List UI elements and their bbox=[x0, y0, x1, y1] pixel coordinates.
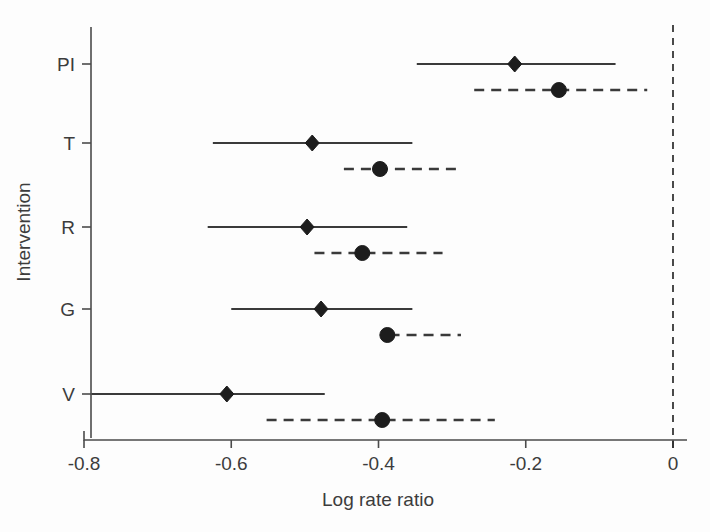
forest-plot-canvas: -0.8-0.6-0.4-0.20PITRGVLog rate ratioInt… bbox=[0, 0, 710, 532]
forest-row bbox=[417, 56, 647, 98]
estimate-marker-diamond bbox=[300, 219, 314, 235]
estimate-marker-diamond bbox=[305, 135, 319, 151]
estimate-marker-circle bbox=[380, 328, 395, 343]
estimate-marker-diamond bbox=[220, 386, 234, 402]
x-axis-tick-label: -0.6 bbox=[215, 453, 248, 474]
axis-labels-layer: -0.8-0.6-0.4-0.20PITRGVLog rate ratioInt… bbox=[13, 54, 678, 510]
x-axis-tick-label: -0.8 bbox=[68, 453, 101, 474]
y-axis-tick-label: T bbox=[63, 133, 75, 154]
x-axis-tick-label: -0.4 bbox=[362, 453, 395, 474]
x-axis-title: Log rate ratio bbox=[322, 489, 434, 510]
data-series-layer bbox=[91, 56, 647, 428]
y-axis-tick-label: G bbox=[60, 299, 75, 320]
y-axis-tick-label: PI bbox=[57, 54, 75, 75]
estimate-marker-circle bbox=[355, 246, 370, 261]
forest-row bbox=[213, 135, 460, 177]
forest-row bbox=[208, 219, 443, 261]
y-axis-tick-label: V bbox=[62, 384, 75, 405]
forest-plot-figure: -0.8-0.6-0.4-0.20PITRGVLog rate ratioInt… bbox=[0, 0, 710, 532]
forest-row bbox=[91, 386, 494, 428]
estimate-marker-circle bbox=[372, 162, 387, 177]
estimate-marker-circle bbox=[375, 413, 390, 428]
y-axis-tick-label: R bbox=[61, 217, 75, 238]
x-axis-tick-label: -0.2 bbox=[509, 453, 542, 474]
y-axis-title: Intervention bbox=[13, 182, 34, 281]
forest-row bbox=[231, 301, 461, 343]
estimate-marker-diamond bbox=[508, 56, 522, 72]
x-axis-spine bbox=[84, 431, 687, 440]
estimate-marker-circle bbox=[551, 83, 566, 98]
estimate-marker-diamond bbox=[314, 301, 328, 317]
x-axis-tick-label: 0 bbox=[668, 453, 679, 474]
